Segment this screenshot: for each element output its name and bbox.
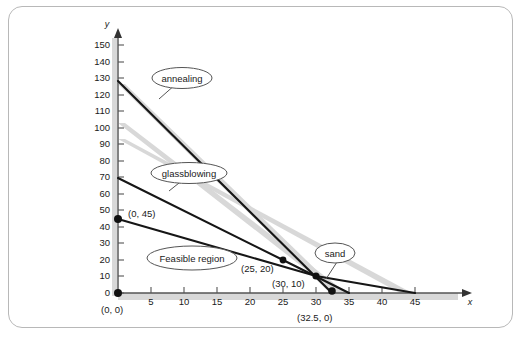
y-tick-10: 10 [99, 270, 110, 281]
x-tick-20: 20 [245, 296, 256, 307]
y-tick-80: 80 [99, 155, 110, 166]
x-tick-35: 35 [344, 296, 355, 307]
point-0-45 [114, 215, 122, 223]
point-30-10 [312, 272, 319, 279]
y-tick-110: 110 [95, 105, 110, 116]
y-tick-40: 40 [99, 221, 110, 232]
y-tick-100: 100 [94, 122, 110, 133]
callout-label-sand: sand [325, 248, 346, 259]
y-tick-150: 150 [94, 39, 110, 50]
point-label-25-20: (25, 20) [241, 263, 274, 274]
y-tick-30: 30 [99, 237, 110, 248]
x-tick-labels: 5 10 15 20 25 30 35 40 45 [148, 296, 420, 307]
callout-glassblowing: glassblowing [151, 163, 227, 192]
y-tick-120: 120 [94, 89, 110, 100]
x-axis-arrow [462, 289, 472, 297]
y-tick-60: 60 [99, 188, 110, 199]
point-32.5-0 [328, 287, 336, 295]
point-label-0-0: (0, 0) [101, 304, 123, 315]
y-tick-50: 50 [99, 204, 110, 215]
callout-leader-sand [326, 262, 337, 279]
y-tick-labels: 0 10 20 30 40 50 60 70 80 90 100 110 120… [94, 39, 110, 298]
x-tick-40: 40 [377, 296, 388, 307]
feasible-region-label: Feasible region [147, 246, 237, 270]
x-tick-5: 5 [148, 296, 153, 307]
y-tick-0: 0 [105, 287, 110, 298]
x-tick-15: 15 [212, 296, 223, 307]
y-tick-90: 90 [99, 138, 110, 149]
callout-label-glassblowing: glassblowing [162, 168, 216, 179]
callout-annealing: annealing [152, 68, 212, 100]
point-0-0 [114, 289, 122, 297]
x-tick-25: 25 [278, 296, 289, 307]
callout-label-annealing: annealing [161, 73, 202, 84]
x-tick-10: 10 [179, 296, 190, 307]
y-tick-70: 70 [99, 171, 110, 182]
feasible-region-text: Feasible region [160, 253, 225, 264]
x-tick-30: 30 [311, 296, 322, 307]
y-axis-arrow [114, 28, 122, 38]
x-tick-45: 45 [410, 296, 421, 307]
y-tick-130: 130 [94, 72, 110, 83]
point-label-0-45: (0, 45) [128, 208, 155, 219]
y-tick-140: 140 [94, 56, 110, 67]
point-label-32.5-0: (32.5, 0) [297, 312, 332, 323]
y-axis-label: y [104, 19, 110, 29]
x-axis-label: x [467, 297, 473, 307]
point-label-30-10: (30, 10) [272, 278, 305, 289]
y-tick-20: 20 [99, 254, 110, 265]
feasible-region-chart: 0 10 20 30 40 50 60 70 80 90 100 110 120… [0, 0, 523, 337]
point-25-20 [280, 257, 287, 264]
